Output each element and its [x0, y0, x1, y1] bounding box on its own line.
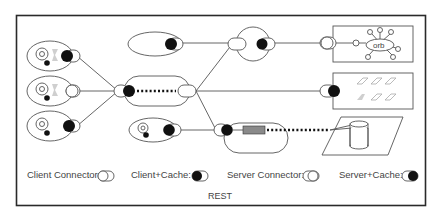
- file-server: [320, 73, 413, 109]
- client-cache-symbol: [192, 171, 208, 181]
- user-agent-3: [27, 111, 80, 141]
- gateway-middle: [114, 76, 196, 106]
- user-agent-2: [27, 76, 80, 106]
- connection-lines: [77, 43, 323, 130]
- orb-label: orb: [373, 41, 385, 50]
- legend: Client Connector: Client+Cache: Server C…: [27, 169, 418, 181]
- proxy-top: [128, 32, 183, 56]
- user-agent-1: [27, 41, 80, 71]
- database-server: [322, 117, 403, 155]
- gateway-bottom: [214, 123, 330, 153]
- cache-proxy-top: [228, 27, 275, 61]
- database-icon: [350, 121, 368, 149]
- cache-block: [243, 126, 265, 134]
- legend-server-connector: Server Connector:: [227, 169, 304, 180]
- cache-bottom-agent: [129, 118, 181, 142]
- client-connector-symbol: [98, 171, 114, 181]
- orb-server: orb: [320, 26, 413, 62]
- server-connector-symbol: [303, 171, 319, 181]
- rest-architecture-diagram: orb: [0, 0, 441, 220]
- legend-server-cache: Server+Cache:: [339, 169, 403, 180]
- legend-client-cache: Client+Cache:: [131, 169, 191, 180]
- server-cache-symbol: [402, 171, 418, 181]
- diagram-caption: REST: [208, 191, 233, 201]
- legend-client-connector: Client Connector:: [27, 169, 100, 180]
